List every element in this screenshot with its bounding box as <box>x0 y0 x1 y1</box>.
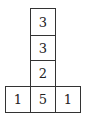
cell-bottom-left: 1 <box>5 86 31 113</box>
cell-column-row-1: 3 <box>30 8 56 36</box>
cell-column-row-3: 2 <box>30 60 56 87</box>
cell-bottom-right: 1 <box>55 86 81 113</box>
cell-bottom-center: 5 <box>30 86 56 113</box>
cell-column-row-2: 3 <box>30 35 56 61</box>
